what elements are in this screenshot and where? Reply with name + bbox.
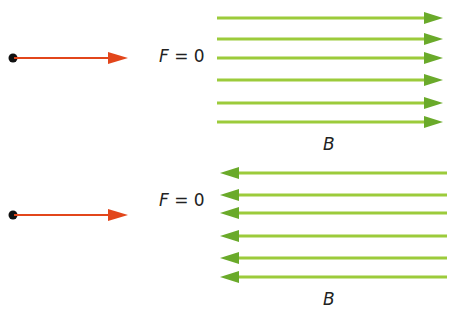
field-line — [217, 33, 443, 45]
field-line — [217, 52, 443, 64]
force-label-1: F = 0 — [159, 46, 205, 66]
field-symbol: B — [323, 134, 335, 154]
field-line — [217, 12, 443, 24]
velocity-arrow-1 — [14, 52, 128, 64]
field-line — [217, 116, 443, 128]
velocity-arrow-2 — [14, 209, 128, 221]
field-symbol: B — [323, 289, 335, 309]
panel-1 — [9, 12, 444, 128]
force-label-2: F = 0 — [159, 190, 205, 210]
field-label-2: B — [323, 289, 335, 309]
field-line — [217, 97, 443, 109]
field-line — [220, 271, 447, 283]
field-line — [217, 74, 443, 86]
field-line — [220, 167, 447, 179]
force-value: = 0 — [169, 46, 205, 66]
force-value: = 0 — [169, 190, 205, 210]
panel-2 — [9, 167, 448, 283]
force-symbol: F — [159, 46, 169, 66]
field-lines-left — [220, 167, 447, 283]
diagram-canvas — [0, 0, 461, 319]
force-symbol: F — [159, 190, 169, 210]
field-line — [220, 189, 447, 201]
field-lines-right — [217, 12, 443, 128]
field-label-1: B — [323, 134, 335, 154]
field-line — [220, 207, 447, 219]
field-line — [220, 252, 447, 264]
field-line — [220, 230, 447, 242]
